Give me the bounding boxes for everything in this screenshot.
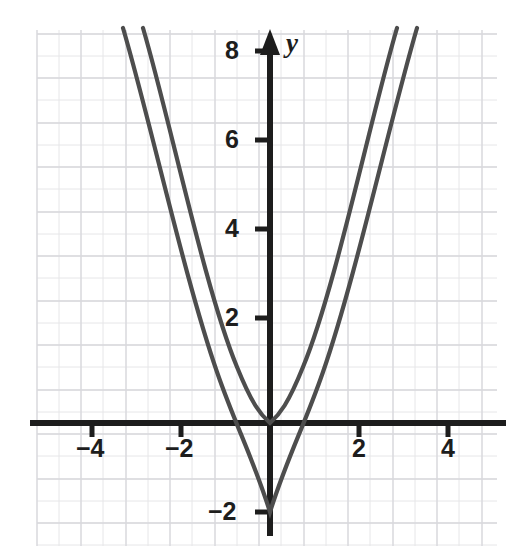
x-tick-label-2: 2 — [352, 436, 366, 461]
y-tick-label-8: 8 — [225, 38, 239, 63]
y-tick-label-6: 6 — [225, 127, 239, 152]
y-tick-label--2: −2 — [208, 499, 237, 524]
x-tick-label--2: −2 — [165, 436, 194, 461]
coordinate-plane — [0, 0, 522, 555]
graph-canvas: −4 −2 2 4 8 6 4 2 −2 y — [0, 0, 522, 555]
y-axis-label: y — [286, 30, 298, 57]
x-tick-label--4: −4 — [76, 436, 105, 461]
y-tick-label-4: 4 — [225, 216, 239, 241]
x-tick-label-4: 4 — [441, 436, 455, 461]
y-tick-label-2: 2 — [225, 305, 239, 330]
